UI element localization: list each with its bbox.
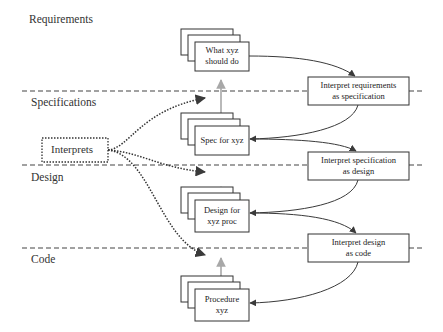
interprets-to-design-level: [108, 150, 205, 172]
process-spec-to-design-line1: Interpret specification: [308, 155, 409, 166]
section-label-specifications: Specifications: [31, 96, 96, 108]
artifact-what-line2: should do: [195, 56, 249, 67]
section-label-design: Design: [31, 171, 64, 183]
artifact-procedure-line1: Procedure: [195, 294, 249, 305]
flow-spec-to-process2: [250, 139, 356, 151]
flow-design-to-process3: [250, 213, 356, 233]
process-req-to-spec: Interpret requirements as specification: [308, 80, 409, 102]
artifact-spec-line1: Spec for xyz: [195, 135, 249, 146]
section-label-code: Code: [31, 253, 55, 265]
flow-what-to-process1: [249, 56, 355, 76]
process-design-to-code: Interpret design as code: [308, 237, 409, 259]
process-req-to-spec-line2: as specification: [308, 91, 409, 102]
flow-process3-to-procedure: [250, 262, 358, 303]
artifact-procedure: Procedure xyz: [195, 294, 249, 316]
artifact-design-line2: xyz proc: [195, 216, 249, 227]
process-design-to-code-line1: Interpret design: [308, 237, 409, 248]
artifact-what: What xyz should do: [195, 45, 249, 67]
artifact-procedure-line2: xyz: [195, 305, 249, 316]
artifact-stack-spec: [181, 113, 249, 155]
flow-process2-to-design: [250, 180, 358, 213]
artifact-design: Design for xyz proc: [195, 205, 249, 227]
artifact-spec: Spec for xyz: [195, 135, 249, 146]
section-label-requirements: Requirements: [29, 13, 93, 25]
process-design-to-code-line2: as code: [308, 248, 409, 259]
artifact-what-line1: What xyz: [195, 45, 249, 56]
flow-process1-to-spec: [250, 105, 358, 139]
artifact-design-line1: Design for: [195, 205, 249, 216]
process-req-to-spec-line1: Interpret requirements: [308, 80, 409, 91]
interprets-label: Interprets: [51, 143, 93, 155]
process-spec-to-design-line2: as design: [308, 166, 409, 177]
process-spec-to-design: Interpret specification as design: [308, 155, 409, 177]
